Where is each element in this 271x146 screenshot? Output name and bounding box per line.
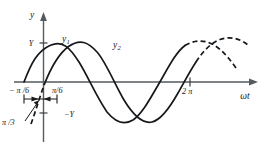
plot-svg: y ωt Y −Y − π /6 π/6 2 π π /3 y1 y2 — [0, 0, 271, 146]
curve-y1-dashed-right — [185, 41, 236, 68]
curve-y2-label-subscript: 2 — [118, 44, 122, 51]
phase-dimension-arrow-right — [44, 96, 51, 101]
y-tick-positive-label: Y — [29, 39, 35, 48]
x-axis-label: ωt — [240, 91, 250, 101]
y-axis-label: y — [29, 10, 35, 20]
x-tick-label-2pi: 2 π — [182, 87, 193, 96]
figure-container: y ωt Y −Y − π /6 π/6 2 π π /3 y1 y2 — [0, 0, 271, 146]
curve-y2-label: y2 — [112, 40, 122, 51]
curve-y1-label-subscript: 1 — [67, 38, 70, 45]
phase-label-leader-line — [25, 102, 38, 121]
x-tick-label-pi-6: π/6 — [52, 86, 63, 95]
phase-difference-label: π /3 — [2, 118, 15, 127]
x-tick-label-neg-pi-6: − π /6 — [9, 86, 30, 95]
phase-label-leader-arrowhead — [34, 100, 40, 105]
phase-dimension-arrow-left — [32, 96, 39, 101]
y-tick-negative-label: −Y — [64, 110, 76, 119]
curve-y1-solid — [24, 44, 185, 123]
curve-y2-dashed-left — [31, 84, 45, 124]
y-axis-arrowhead — [40, 12, 47, 21]
x-axis-arrowhead — [249, 79, 258, 86]
curve-y1-label: y1 — [61, 34, 70, 45]
